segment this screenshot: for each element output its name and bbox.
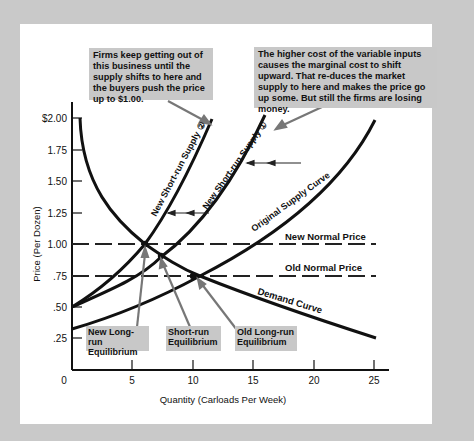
svg-text:1.00: 1.00 (48, 239, 68, 250)
note-left-text: Firms keep getting out of this business … (93, 50, 205, 104)
svg-text:1.25: 1.25 (48, 208, 68, 219)
svg-text:.75: .75 (53, 271, 67, 282)
short-run-line1: Short-run (168, 327, 219, 337)
svg-text:.50: .50 (53, 302, 67, 313)
y-tick-labels: $2.00 1.75 1.50 1.25 1.00 .75 .50 .25 (42, 113, 67, 344)
new-long-run-equilibrium-label: New Long-run Equilibrium (86, 326, 149, 351)
original-supply-label: Original Supply Curve (249, 170, 331, 234)
x-ticks (132, 360, 374, 370)
old-long-run-equilibrium-label: Old Long-run Equilibrium (235, 326, 297, 351)
new-long-run-line1: New Long-run (88, 327, 147, 347)
note-left: Firms keep getting out of this business … (89, 48, 213, 100)
note-right-text: The higher cost of the variable inputs c… (258, 49, 425, 114)
x-tick-labels: 0 5 10 15 20 25 (61, 375, 380, 386)
y-axis-title: Price (Per Dozen) (31, 206, 42, 282)
svg-text:5: 5 (129, 375, 135, 386)
svg-text:25: 25 (368, 375, 380, 386)
svg-text:0: 0 (61, 375, 67, 386)
svg-text:$2.00: $2.00 (42, 113, 67, 124)
new-short-run-supply-2-label: New Short-run Supply ② (149, 121, 207, 218)
svg-text:15: 15 (247, 375, 259, 386)
short-run-line2: Equilibrium (168, 337, 219, 347)
note-left-pointer (168, 101, 210, 124)
x-axis-title: Quantity (Carloads Per Week) (160, 394, 287, 405)
shift-arrow-upper (247, 161, 301, 166)
svg-text:.25: .25 (53, 333, 67, 344)
original-supply-curve (72, 120, 375, 329)
short-run-equilibrium-label: Short-run Equilibrium (166, 326, 221, 351)
new-normal-price-label: New Normal Price (285, 231, 366, 242)
demand-curve (80, 118, 376, 338)
old-long-run-equilibrium-point (190, 273, 196, 279)
svg-text:10: 10 (187, 375, 199, 386)
new-long-run-line2: Equilibrium (88, 347, 147, 357)
new-short-run-supply-1-label: New Short-run Supply ① (200, 119, 268, 211)
svg-text:1.75: 1.75 (48, 145, 68, 156)
svg-text:20: 20 (308, 375, 320, 386)
equilibrium-pointers (137, 248, 240, 334)
old-long-run-line2: Equilibrium (237, 337, 295, 347)
svg-text:1.50: 1.50 (48, 176, 68, 187)
old-long-run-line1: Old Long-run (237, 327, 295, 337)
note-right: The higher cost of the variable inputs c… (254, 47, 437, 108)
old-normal-price-label: Old Normal Price (285, 262, 362, 273)
